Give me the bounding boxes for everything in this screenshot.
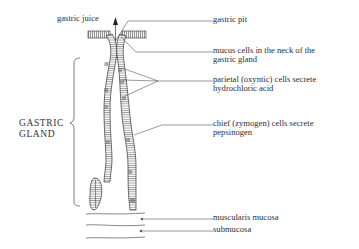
gastric-gland-title-line2: GLAND [19,129,64,140]
gastric-juice-label: gastric juice [57,14,99,23]
label-gastric-pit: gastric pit [213,15,247,24]
label-submucosa: submucosa [213,225,251,234]
label-mucus-cells: mucus cells in the neck of the gastric g… [213,46,315,65]
label-chief-cells-line2: pepsinogen [213,128,313,137]
label-muscularis-mucosa-line1: muscularis mucosa [213,213,279,222]
label-submucosa-line1: submucosa [213,225,251,234]
gastric-gland-bracket [70,58,80,206]
gland-tubule-left [104,34,117,182]
label-parietal-cells-line2: hydrochloric acid [213,84,316,93]
label-parietal-cells: parietal (oxyntic) cells secrete hydroch… [213,75,316,94]
gastric-gland-title: GASTRIC GLAND [19,118,64,140]
label-mucus-cells-line2: gastric gland [213,55,315,64]
leader-chief-cells [134,125,213,135]
gastric-gland-title-line1: GASTRIC [19,118,64,129]
leader-parietal-3 [125,81,158,96]
label-gastric-pit-line1: gastric pit [213,15,247,24]
gastric-gland-diagram: gastric juice GASTRIC GLAND gastric pit … [0,0,359,249]
muscularis-mucosa-lines [86,213,145,238]
gland-tubule-right [117,34,136,210]
leader-parietal-1 [122,68,158,81]
label-muscularis-mucosa: muscularis mucosa [213,213,279,222]
leader-parietal-2 [123,80,158,81]
label-chief-cells: chief (zymogen) cells secrete pepsinogen [213,119,313,138]
gland-fragment [90,178,102,210]
leader-mucus-cells [121,37,213,52]
